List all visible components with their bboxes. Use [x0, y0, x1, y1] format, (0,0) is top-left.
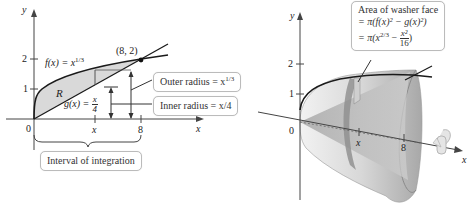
right-ytick-1: 1: [289, 88, 294, 99]
right-xtick-x: x: [356, 137, 360, 148]
f-label: f(x) = x1/3: [45, 56, 84, 68]
left-xtick-x: x: [92, 124, 96, 135]
y-axis-right-arrow: [297, 12, 303, 20]
rotation-arrow-icon: [433, 130, 450, 154]
x-axis-right-arrow: [454, 146, 463, 153]
left-ytick-1: 1: [23, 83, 28, 94]
right-x-label: x: [462, 154, 466, 165]
left-x-label: x: [196, 123, 200, 134]
intersection-label: (8, 2): [116, 45, 138, 56]
y-axis-arrow: [31, 9, 37, 17]
left-xtick-8: 8: [138, 124, 143, 135]
right-xtick-0: 0: [289, 125, 294, 136]
inner-radius-box: Inner radius = x/4: [153, 96, 238, 116]
intersection-point: [139, 58, 144, 63]
left-ytick-2: 2: [22, 53, 27, 64]
washer-top-face: [354, 78, 360, 104]
outer-leader: [131, 80, 152, 90]
region-r-label: R: [56, 87, 63, 99]
left-y-label: y: [22, 4, 26, 15]
washer-area-box: Area of washer face = π(f(x)² − g(x)²) =…: [351, 1, 445, 51]
interval-box: Interval of integration: [40, 151, 142, 171]
right-y-label: y: [290, 10, 294, 21]
right-xtick-8: 8: [401, 142, 406, 153]
outer-radius-box: Outer radius = x1/3: [153, 72, 241, 92]
g-label: g(x) = x4: [64, 95, 98, 114]
right-ytick-2: 2: [288, 58, 293, 69]
left-xtick-0: 0: [26, 123, 31, 134]
interval-brace: [34, 135, 141, 147]
x-axis-arrow: [196, 116, 204, 122]
